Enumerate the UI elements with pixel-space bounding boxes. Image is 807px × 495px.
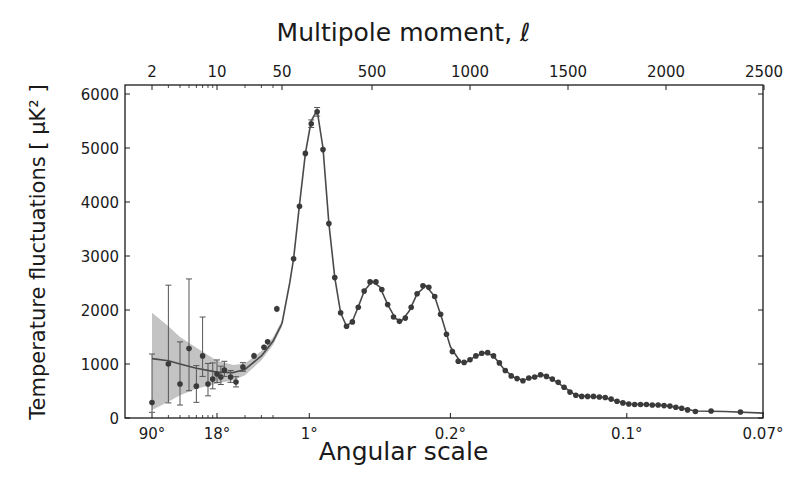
data-point: [355, 305, 361, 311]
data-point: [308, 121, 314, 127]
data-point: [526, 375, 532, 381]
data-point: [620, 400, 626, 406]
data-point: [274, 306, 280, 312]
data-point: [673, 404, 679, 410]
data-point: [149, 400, 155, 406]
data-point: [661, 403, 667, 409]
data-point: [261, 344, 267, 350]
data-point: [485, 350, 491, 356]
data-point: [626, 401, 632, 407]
data-point: [514, 376, 520, 382]
data-point: [303, 151, 309, 157]
data-point: [166, 361, 172, 367]
data-point: [218, 374, 224, 380]
data-point: [391, 314, 397, 320]
top-tick-label: 10: [207, 63, 226, 81]
data-point: [350, 319, 356, 325]
data-point: [550, 376, 556, 382]
data-point: [455, 359, 461, 365]
data-point: [338, 310, 344, 316]
data-point: [426, 285, 432, 291]
data-point: [693, 409, 699, 415]
data-point: [667, 403, 673, 409]
y-tick-label: 3000: [81, 248, 119, 266]
top-tick-label: 50: [272, 63, 291, 81]
data-point: [205, 381, 211, 387]
data-point: [291, 256, 297, 262]
data-point: [520, 378, 526, 384]
y-tick-label: 0: [109, 410, 119, 428]
y-tick-label: 4000: [81, 194, 119, 212]
data-point: [265, 339, 271, 345]
data-point: [597, 394, 603, 400]
bottom-tick-label: 18°: [204, 425, 231, 443]
data-point: [591, 394, 597, 400]
data-point: [491, 353, 497, 359]
data-point: [497, 360, 503, 366]
data-point: [638, 402, 644, 408]
data-point: [397, 319, 403, 325]
data-point: [233, 379, 239, 385]
data-point: [385, 302, 391, 308]
data-point: [649, 402, 655, 408]
data-point: [561, 384, 567, 390]
data-point: [326, 221, 332, 227]
top-tick-label: 2000: [647, 63, 685, 81]
data-point: [361, 288, 367, 294]
data-point: [432, 294, 438, 300]
data-point: [632, 402, 638, 408]
top-tick-label: 1500: [549, 63, 587, 81]
data-point: [461, 360, 467, 366]
top-tick-label: 1000: [451, 63, 489, 81]
data-point: [379, 287, 385, 293]
data-point: [608, 396, 614, 402]
data-point: [177, 381, 183, 387]
y-tick-label: 6000: [81, 86, 119, 104]
top-tick-label: 2: [147, 63, 157, 81]
data-point: [655, 402, 661, 408]
data-point: [502, 368, 508, 374]
data-point: [738, 409, 744, 415]
data-point: [538, 372, 544, 378]
data-point: [532, 374, 538, 380]
data-point: [467, 357, 473, 363]
data-point: [210, 376, 216, 382]
bottom-tick-label: 90°: [139, 425, 166, 443]
data-point: [332, 275, 338, 281]
data-point: [222, 367, 228, 373]
data-point: [450, 349, 456, 355]
data-point: [685, 407, 691, 413]
cmb-power-spectrum-chart: 0100020003000400050006000210505001000150…: [0, 0, 807, 495]
data-point: [320, 147, 326, 153]
bottom-tick-label: 0.2°: [435, 425, 466, 443]
data-point: [297, 204, 303, 210]
data-point: [240, 364, 246, 370]
data-point: [579, 394, 585, 400]
data-point: [403, 315, 409, 321]
data-point: [479, 350, 485, 356]
data-point: [314, 109, 320, 115]
data-point: [644, 402, 650, 408]
data-point: [444, 332, 450, 338]
data-point: [251, 353, 257, 359]
bottom-tick-label: 0.07°: [743, 425, 784, 443]
data-point: [585, 394, 591, 400]
data-point: [194, 383, 200, 389]
data-point: [602, 395, 608, 401]
bottom-tick-label: 1°: [301, 425, 318, 443]
data-point: [508, 373, 514, 379]
data-point: [367, 279, 373, 285]
data-point: [420, 283, 426, 289]
top-tick-label: 2500: [745, 63, 783, 81]
data-point: [544, 374, 550, 380]
data-point: [614, 398, 620, 404]
y-tick-label: 2000: [81, 302, 119, 320]
data-point: [200, 353, 206, 359]
data-point: [679, 405, 685, 411]
data-point: [473, 353, 479, 359]
data-point: [186, 346, 192, 352]
top-tick-label: 500: [358, 63, 387, 81]
data-point: [438, 312, 444, 318]
data-point: [555, 380, 561, 386]
data-point: [414, 291, 420, 297]
